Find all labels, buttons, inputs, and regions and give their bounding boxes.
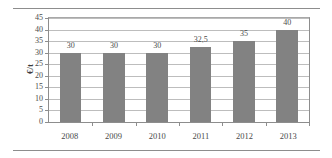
bar-group[interactable]: 30 xyxy=(49,18,92,122)
x-axis-labels: 200820092010201120122013 xyxy=(48,129,310,143)
bar-value-label: 30 xyxy=(92,42,135,50)
y-axis-tick-label: 5 xyxy=(39,106,43,114)
bars: 30303032,53540 xyxy=(49,18,309,122)
bar[interactable] xyxy=(103,53,125,122)
x-axis-tick xyxy=(136,122,137,126)
y-axis-tick-label: 20 xyxy=(35,72,43,80)
x-axis-tick-label: 2010 xyxy=(149,129,166,143)
bar-group[interactable]: 40 xyxy=(266,18,309,122)
x-axis-tick xyxy=(179,122,180,126)
bar-value-label: 35 xyxy=(222,30,265,38)
x-axis-tick-label: 2008 xyxy=(61,129,78,143)
bar[interactable] xyxy=(60,53,82,122)
y-axis-tick-label: 25 xyxy=(35,60,43,68)
y-axis-tick-label: 45 xyxy=(35,14,43,22)
y-axis-tick xyxy=(45,122,49,123)
bar-group[interactable]: 32,5 xyxy=(179,18,222,122)
bar-group[interactable]: 30 xyxy=(136,18,179,122)
bar-value-label: 40 xyxy=(266,19,309,27)
bar[interactable] xyxy=(146,53,168,122)
y-axis-tick-label: 30 xyxy=(35,49,43,57)
bar-chart: €/t 051015202530354045 30303032,53540 20… xyxy=(0,12,332,148)
x-axis-tick-label: 2009 xyxy=(105,129,122,143)
x-axis-tick-label: 2011 xyxy=(192,129,209,143)
top-divider-rule xyxy=(13,8,320,9)
bar[interactable] xyxy=(276,30,298,122)
plot-area: 051015202530354045 30303032,53540 xyxy=(48,17,310,123)
bar[interactable] xyxy=(190,47,212,122)
bar-group[interactable]: 35 xyxy=(222,18,265,122)
x-axis-tick xyxy=(92,122,93,126)
bar-value-label: 32,5 xyxy=(179,36,222,44)
x-axis-tick xyxy=(266,122,267,126)
bar-value-label: 30 xyxy=(136,42,179,50)
y-axis-tick-label: 40 xyxy=(35,26,43,34)
bar-group[interactable]: 30 xyxy=(92,18,135,122)
x-axis-tick xyxy=(222,122,223,126)
y-axis-tick-label: 0 xyxy=(39,118,43,126)
y-axis-tick-label: 35 xyxy=(35,37,43,45)
bar[interactable] xyxy=(233,41,255,122)
y-axis-tick-label: 15 xyxy=(35,83,43,91)
y-axis-tick-label: 10 xyxy=(35,95,43,103)
bar-value-label: 30 xyxy=(49,42,92,50)
bottom-divider-rule xyxy=(13,150,320,151)
x-axis-tick-label: 2012 xyxy=(236,129,253,143)
x-axis-tick-label: 2013 xyxy=(280,129,297,143)
x-axis-tick xyxy=(309,122,310,126)
